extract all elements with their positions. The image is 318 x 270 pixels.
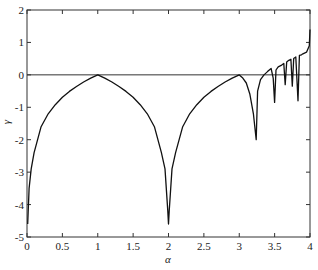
plot-frame (27, 10, 310, 237)
x-tick-label: 2 (166, 240, 172, 252)
y-tick-label: 0 (19, 69, 25, 81)
y-tick-label: -5 (15, 231, 25, 243)
y-tick-label: 1 (19, 36, 25, 48)
x-axis-label: α (165, 253, 171, 265)
y-tick-label: 2 (19, 4, 25, 16)
x-tick-label: 0.5 (56, 240, 70, 252)
y-tick-label: -1 (15, 101, 24, 113)
lyapunov-chart: 00.511.522.533.54 -5-4-3-2-1012 α γ (0, 0, 318, 270)
y-tick-label: -4 (15, 199, 25, 211)
x-tick-label: 0 (24, 240, 30, 252)
x-tick-label: 3 (237, 240, 243, 252)
y-tick-label: -2 (15, 134, 24, 146)
x-tick-label: 3.5 (268, 240, 282, 252)
x-tick-label: 4 (307, 240, 313, 252)
y-axis-label: γ (0, 119, 12, 124)
y-tick-label: -3 (15, 166, 25, 178)
x-tick-label: 1 (95, 240, 101, 252)
x-tick-label: 2.5 (197, 240, 211, 252)
data-series-line (28, 30, 310, 225)
x-tick-label: 1.5 (126, 240, 140, 252)
y-ticks: -5-4-3-2-1012 (15, 4, 310, 243)
